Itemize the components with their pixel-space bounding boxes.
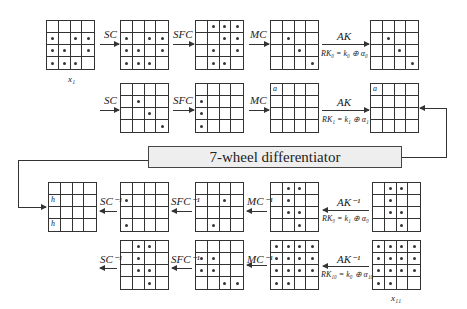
active-byte-cell	[71, 33, 83, 45]
active-byte-cell	[295, 207, 307, 219]
byte-cell	[231, 84, 243, 96]
active-byte-cell	[385, 253, 397, 265]
byte-cell	[156, 253, 168, 265]
state-grid	[46, 20, 95, 70]
byte-cell	[406, 96, 418, 108]
byte-cell	[208, 108, 220, 120]
byte-cell	[397, 277, 409, 289]
byte-cell	[395, 84, 407, 96]
byte-cell	[371, 21, 383, 33]
ak-inverse-arrow	[323, 266, 369, 267]
active-byte-cell	[145, 265, 157, 277]
active-byte-cell	[156, 33, 168, 45]
mc-label: MC	[250, 94, 267, 106]
byte-cell	[271, 183, 283, 195]
differentiator-box: 7-wheel differentiator	[148, 146, 402, 168]
connector-line	[18, 160, 19, 208]
byte-cell	[145, 219, 157, 231]
active-byte-cell	[231, 21, 243, 33]
active-byte-cell	[231, 33, 243, 45]
sfc-label: SFC	[173, 28, 193, 40]
active-byte-cell	[133, 57, 145, 69]
active-byte-cell	[208, 57, 220, 69]
byte-cell	[133, 183, 145, 195]
byte-cell	[220, 183, 232, 195]
byte-cell	[283, 84, 295, 96]
active-byte-cell	[196, 120, 208, 132]
byte-cell	[73, 195, 85, 207]
byte-cell	[306, 21, 318, 33]
sfc-inverse-label: SFC⁻¹	[171, 195, 200, 208]
byte-cell	[371, 57, 383, 69]
mc-arrow	[249, 110, 269, 111]
byte-cell	[121, 207, 133, 219]
byte-cell	[133, 108, 145, 120]
byte-cell	[220, 108, 232, 120]
byte-cell	[220, 45, 232, 57]
byte-cell	[208, 120, 220, 132]
active-byte-cell	[145, 241, 157, 253]
byte-cell	[306, 207, 318, 219]
x11-label: x₁₁	[391, 293, 401, 303]
byte-cell	[408, 183, 420, 195]
active-byte-cell	[196, 96, 208, 108]
byte-cell	[71, 45, 83, 57]
cell-label: h	[51, 195, 55, 204]
byte-cell	[271, 108, 283, 120]
byte-cell	[283, 21, 295, 33]
byte-cell	[395, 57, 407, 69]
byte-cell	[395, 21, 407, 33]
active-byte-cell	[47, 33, 59, 45]
active-byte-cell	[373, 277, 385, 289]
differentiator-label: 7-wheel differentiator	[210, 149, 341, 166]
byte-cell	[295, 120, 307, 132]
byte-cell	[395, 96, 407, 108]
active-byte-cell	[385, 241, 397, 253]
byte-cell	[406, 21, 418, 33]
active-byte-cell	[397, 241, 409, 253]
feedback-line	[402, 157, 447, 158]
byte-cell	[61, 219, 73, 231]
byte-cell	[408, 195, 420, 207]
active-byte-cell	[145, 33, 157, 45]
byte-cell	[84, 219, 96, 231]
byte-cell	[295, 108, 307, 120]
byte-cell	[133, 21, 145, 33]
byte-cell	[49, 207, 61, 219]
byte-cell	[121, 265, 133, 277]
state-grid: a	[370, 83, 419, 133]
active-byte-cell	[196, 265, 208, 277]
byte-cell	[47, 21, 59, 33]
byte-cell	[208, 241, 220, 253]
active-byte-cell	[283, 241, 295, 253]
active-byte-cell	[220, 21, 232, 33]
active-byte-cell	[383, 33, 395, 45]
mc-arrow	[249, 44, 269, 45]
byte-cell	[156, 241, 168, 253]
active-byte-cell	[283, 253, 295, 265]
byte-cell	[283, 120, 295, 132]
byte-cell	[145, 120, 157, 132]
byte-cell	[208, 33, 220, 45]
byte-cell	[295, 57, 307, 69]
active-byte-cell	[121, 219, 133, 231]
byte-cell	[196, 84, 208, 96]
active-byte-cell	[295, 45, 307, 57]
active-byte-cell	[133, 96, 145, 108]
cell-label: a	[273, 84, 277, 93]
byte-cell	[395, 108, 407, 120]
byte-cell	[271, 207, 283, 219]
byte-cell: h	[49, 195, 61, 207]
ak-inverse-label: AK⁻¹	[337, 196, 360, 209]
active-byte-cell	[397, 207, 409, 219]
state-grid	[270, 20, 319, 70]
byte-cell	[71, 21, 83, 33]
byte-cell	[145, 21, 157, 33]
ak-arrow	[322, 44, 369, 45]
byte-cell	[220, 96, 232, 108]
byte-cell: h	[49, 219, 61, 231]
byte-cell	[84, 195, 96, 207]
mc-label: MC	[250, 28, 267, 40]
byte-cell	[373, 183, 385, 195]
byte-cell	[220, 219, 232, 231]
